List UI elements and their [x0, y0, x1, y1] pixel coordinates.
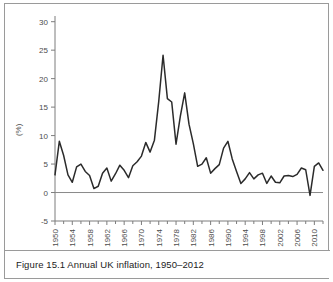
x-tick-labels: 1950195419581962196619701974197819821986…	[51, 228, 319, 246]
x-tick-label: 2006	[293, 228, 302, 246]
x-tick-label: 1986	[207, 228, 216, 246]
y-tick-marks	[51, 22, 55, 221]
y-tick-label: 0	[44, 189, 49, 198]
x-tick-label: 1970	[137, 228, 146, 246]
x-axis: 1950195419581962196619701974197819821986…	[51, 221, 323, 247]
x-tick-label: 1966	[120, 228, 129, 246]
figure-caption: Figure 15.1 Annual UK inflation, 1950–20…	[5, 259, 204, 270]
figure-container: 302520151050-5 1950195419581962196619701…	[0, 0, 333, 282]
y-tick-label: 5	[44, 160, 49, 169]
y-axis-title: (%)	[14, 123, 23, 136]
figure-caption-bar: Figure 15.1 Annual UK inflation, 1950–20…	[5, 250, 330, 278]
x-tick-label: 1954	[68, 228, 77, 246]
y-tick-label: 25	[39, 46, 48, 55]
x-tick-label: 1990	[224, 228, 233, 246]
inflation-series-line	[55, 55, 323, 195]
x-tick-label: 1978	[172, 228, 181, 246]
y-tick-label: 20	[39, 75, 48, 84]
y-tick-labels: 302520151050-5	[39, 18, 48, 226]
x-tick-marks	[55, 221, 323, 225]
x-tick-label: 1994	[241, 228, 250, 246]
x-tick-label: 2002	[276, 228, 285, 246]
x-tick-label: 1962	[103, 228, 112, 246]
figure-frame: 302520151050-5 1950195419581962196619701…	[4, 3, 329, 279]
x-tick-label: 2010	[310, 228, 319, 246]
inflation-line-chart: 302520151050-5 1950195419581962196619701…	[5, 4, 330, 252]
x-tick-label: 1950	[51, 228, 60, 246]
y-tick-label: 10	[39, 132, 48, 141]
x-tick-label: 1998	[258, 228, 267, 246]
y-tick-label: 15	[39, 103, 48, 112]
chart-plot-area: 302520151050-5 1950195419581962196619701…	[5, 4, 330, 252]
y-tick-label: -5	[41, 217, 49, 226]
y-tick-label: 30	[39, 18, 48, 27]
x-tick-label: 1974	[155, 228, 164, 246]
x-tick-label: 1958	[86, 228, 95, 246]
x-tick-label: 1982	[189, 228, 198, 246]
y-axis: 302520151050-5	[39, 16, 55, 226]
